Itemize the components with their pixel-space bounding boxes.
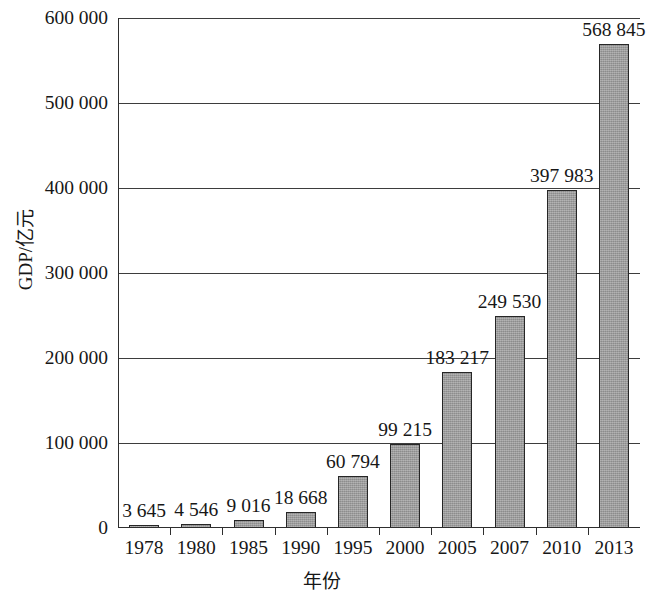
gridline-600000 (118, 18, 640, 19)
y-tick-label: 500 000 (0, 93, 108, 113)
bar-2007 (495, 316, 525, 528)
x-tick-label: 1995 (333, 538, 372, 558)
bar-value-label: 183 217 (426, 348, 489, 368)
gridline-500000 (118, 103, 640, 104)
x-axis-tick (327, 528, 328, 535)
x-axis-tick (431, 528, 432, 535)
x-tick-label: 1980 (177, 538, 216, 558)
bar-value-label: 9 016 (227, 496, 271, 516)
bar-value-label: 4 546 (174, 500, 218, 520)
x-tick-label: 2013 (594, 538, 633, 558)
y-tick-label: 600 000 (0, 8, 108, 28)
bar-value-label: 568 845 (582, 20, 645, 40)
y-tick-label: 200 000 (0, 348, 108, 368)
x-tick-label: 1985 (229, 538, 268, 558)
y-tick-label: 400 000 (0, 178, 108, 198)
bar-2013 (599, 44, 629, 528)
x-tick-label: 1990 (281, 538, 320, 558)
bar-1995 (338, 476, 368, 528)
bar-value-label: 3 645 (122, 501, 166, 521)
x-axis-tick (222, 528, 223, 535)
y-tick-label: 100 000 (0, 433, 108, 453)
bar-2010 (547, 190, 577, 528)
bar-value-label: 397 983 (530, 166, 593, 186)
x-axis-tick (483, 528, 484, 535)
bar-value-label: 249 530 (478, 292, 541, 312)
x-tick-label: 2005 (438, 538, 477, 558)
bar-1990 (286, 512, 316, 528)
bar-2000 (390, 444, 420, 528)
bar-value-label: 99 215 (378, 420, 432, 440)
y-tick-label: 300 000 (0, 263, 108, 283)
y-axis-line (118, 18, 119, 528)
x-axis-tick (275, 528, 276, 535)
x-axis-tick (588, 528, 589, 535)
bar-value-label: 18 668 (274, 488, 328, 508)
x-tick-label: 1978 (125, 538, 164, 558)
x-axis-tick (170, 528, 171, 535)
x-tick-label: 2010 (542, 538, 581, 558)
bar-2005 (442, 372, 472, 528)
bar-value-label: 60 794 (326, 452, 380, 472)
x-axis-tick (536, 528, 537, 535)
x-tick-label: 2007 (490, 538, 529, 558)
x-axis-title: 年份 (0, 566, 644, 592)
y-axis-title: GDP/亿元 (10, 190, 37, 310)
x-tick-label: 2000 (386, 538, 425, 558)
y-tick-label: 0 (0, 518, 108, 538)
x-axis-tick (379, 528, 380, 535)
